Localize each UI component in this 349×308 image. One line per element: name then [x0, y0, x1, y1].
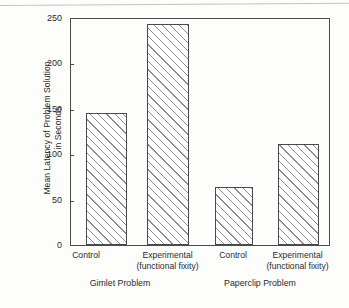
- y-tick-100: 100: [0, 155, 70, 156]
- bar-gimlet-control: [86, 113, 127, 245]
- bar-gimlet-experimental: [147, 24, 189, 245]
- bar-paperclip-experimental: [278, 144, 319, 245]
- y-tick-label-0: 0: [57, 240, 62, 250]
- figure: Mean Latency of Problem Solution in Seco…: [0, 0, 349, 308]
- y-tick-150: 150: [0, 110, 70, 111]
- y-tick-label-250: 250: [47, 13, 62, 23]
- x-label-paperclip-experimental-line1: Experimental: [272, 250, 322, 260]
- x-label-gimlet-experimental-line1: Experimental: [142, 250, 192, 260]
- x-label-paperclip-experimental-line2: (functional fixity): [240, 261, 349, 272]
- y-tick-label-50: 50: [52, 195, 62, 205]
- y-tick-label-150: 150: [47, 104, 62, 114]
- x-label-gimlet-experimental-line2: (functional fixity): [110, 261, 225, 272]
- y-tick-50: 50: [0, 201, 70, 202]
- y-axis-title-line1: Mean Latency of Problem Solution: [42, 61, 52, 194]
- y-tick-250: 250: [0, 19, 70, 20]
- page-rule-decoration: [0, 3, 349, 6]
- plot-area: [70, 18, 330, 246]
- y-tick-0: 0: [0, 246, 70, 247]
- bar-paperclip-control: [215, 187, 253, 245]
- y-tick-200: 200: [0, 64, 70, 65]
- group-label-gimlet: Gimlet Problem: [60, 278, 180, 288]
- x-label-paperclip-experimental: Experimental (functional fixity): [240, 250, 349, 271]
- group-label-paperclip: Paperclip Problem: [195, 278, 325, 288]
- x-label-gimlet-control-line1: Control: [72, 250, 100, 260]
- y-tick-label-200: 200: [47, 58, 62, 68]
- y-tick-label-100: 100: [47, 149, 62, 159]
